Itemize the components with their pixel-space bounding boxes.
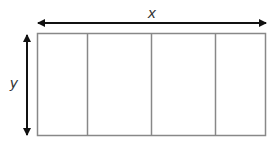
- height-label: y: [9, 75, 19, 91]
- rectangle-diagram: x y: [0, 0, 278, 145]
- width-label: x: [147, 5, 157, 21]
